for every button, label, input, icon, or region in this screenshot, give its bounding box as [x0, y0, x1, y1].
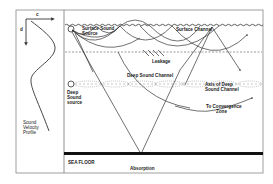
surface-channel-rays — [72, 20, 247, 51]
label-deep-source-3: source — [67, 100, 82, 105]
label-leakage: Leakage — [152, 59, 170, 64]
sound-propagation-diagram — [0, 0, 273, 184]
leakage-arrows — [143, 50, 164, 56]
label-absorption: Absorption — [130, 166, 155, 171]
long-surface-ray — [185, 27, 212, 85]
label-deep-sound-channel: Deep Sound Channel — [127, 73, 173, 78]
profile-caption-3: Profile — [23, 130, 36, 135]
sea-floor-bar — [64, 152, 263, 155]
velocity-profile-axes — [26, 19, 53, 44]
deep-sound-source — [68, 81, 74, 87]
label-surface-channel: Surface Channel — [176, 27, 212, 32]
label-convergence-2: Zone — [216, 109, 227, 114]
velocity-profile-curve — [31, 21, 55, 131]
bottom-bounce-rays — [72, 27, 212, 154]
steep-surface-ray — [212, 27, 240, 70]
axis-label-c: c — [36, 12, 39, 17]
label-sea-floor: SEA FLOOR — [68, 160, 95, 165]
label-surface-source-2: Source — [82, 31, 98, 36]
axis-label-d: d — [20, 27, 23, 32]
label-axis-2: Sound Channel — [205, 87, 239, 92]
